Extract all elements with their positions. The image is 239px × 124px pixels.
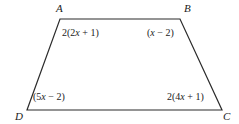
- trapezoid-shape: [0, 0, 239, 124]
- figure-canvas: A B C D 2(2x + 1) (x − 2) (5x − 2) 2(4x …: [0, 0, 239, 124]
- angle-expression-at-d: (5x − 2): [33, 92, 65, 102]
- angle-expression-at-c-suffix: + 1): [185, 91, 204, 102]
- angle-expression-at-a-prefix: 2(2: [62, 27, 75, 38]
- vertex-label-c: C: [223, 111, 231, 122]
- vertex-label-d: D: [15, 111, 23, 122]
- angle-expression-at-c: 2(4x + 1): [167, 92, 204, 102]
- angle-expression-at-c-prefix: 2(4: [167, 91, 180, 102]
- angle-expression-at-a-suffix: + 1): [80, 27, 99, 38]
- angle-expression-at-b: (x − 2): [147, 28, 174, 38]
- angle-expression-at-a: 2(2x + 1): [62, 28, 99, 38]
- angle-expression-at-d-suffix: − 2): [46, 91, 65, 102]
- vertex-label-a: A: [56, 3, 63, 14]
- angle-expression-at-b-suffix: − 2): [155, 27, 174, 38]
- vertex-label-b: B: [184, 3, 191, 14]
